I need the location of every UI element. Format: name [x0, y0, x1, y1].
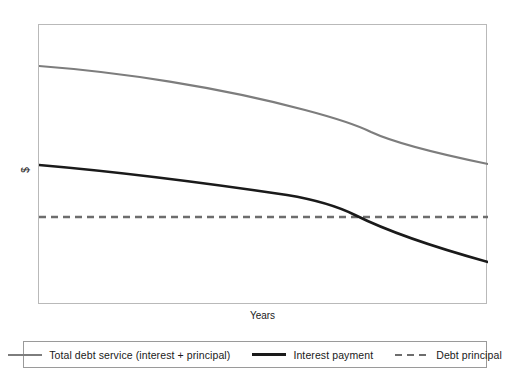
- line-solid-black-icon: [252, 350, 286, 360]
- series-line-total-debt-service: [39, 66, 488, 164]
- legend-item-total-debt-service: Total debt service (interest + principal…: [8, 349, 230, 361]
- line-dashed-gray-icon: [395, 350, 429, 360]
- plot-area: [38, 24, 487, 304]
- legend-item-label: Interest payment: [293, 349, 373, 361]
- legend-item-label: Total debt service (interest + principal…: [49, 349, 230, 361]
- plot-lines-svg: [39, 25, 488, 305]
- legend-item-debt-principal: Debt principal: [395, 349, 502, 361]
- y-axis-label-text: $: [11, 167, 41, 173]
- series-line-interest-payment: [39, 165, 488, 262]
- x-axis-label-text: Years: [250, 310, 275, 321]
- line-solid-gray-icon: [8, 350, 42, 360]
- debt-service-line-chart: $ Years Total debt service (interest + p…: [0, 0, 507, 380]
- chart-legend: Total debt service (interest + principal…: [23, 341, 487, 368]
- legend-item-interest-payment: Interest payment: [252, 349, 373, 361]
- y-axis-label: $: [14, 155, 38, 185]
- legend-item-label: Debt principal: [436, 349, 502, 361]
- x-axis-label: Years: [38, 310, 487, 321]
